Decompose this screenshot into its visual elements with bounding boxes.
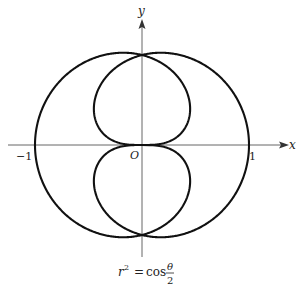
- eq-denominator: 2: [167, 275, 173, 286]
- tick-label-pos1: 1: [249, 150, 256, 163]
- eq-func: cos: [146, 265, 166, 279]
- polar-plot: y x −1 1 O r 2 = cos θ 2: [0, 0, 297, 288]
- eq-equals: =: [134, 265, 144, 279]
- x-axis-label: x: [289, 138, 296, 152]
- tick-label-neg1: −1: [16, 150, 32, 163]
- y-axis-label: y: [137, 4, 145, 18]
- eq-numerator: θ: [167, 261, 173, 272]
- origin-label: O: [130, 149, 139, 162]
- equation-caption: r 2 = cos θ 2: [118, 261, 174, 286]
- eq-exponent: 2: [124, 263, 129, 272]
